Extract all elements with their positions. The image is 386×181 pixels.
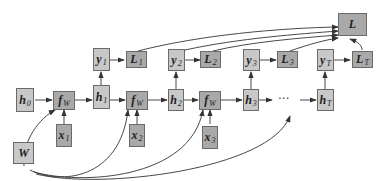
node-fw3: fW bbox=[199, 91, 221, 110]
node-L1: L1 bbox=[126, 51, 147, 68]
node-y2: y2 bbox=[168, 49, 185, 71]
node-L-total: L bbox=[338, 13, 367, 36]
node-yT: yT bbox=[317, 49, 334, 71]
edge-L1-L bbox=[138, 27, 338, 51]
edge-W-fw2 bbox=[30, 110, 128, 177]
node-x3: x3 bbox=[202, 126, 218, 149]
node-W: W bbox=[13, 142, 34, 164]
node-x2: x2 bbox=[129, 124, 145, 147]
edge-y2-L bbox=[185, 31, 338, 50]
node-fw2: fW bbox=[126, 91, 148, 110]
node-x1: x1 bbox=[56, 124, 72, 147]
node-h0: h0 bbox=[16, 88, 34, 112]
node-h3: h3 bbox=[243, 89, 259, 111]
node-L3: L3 bbox=[277, 51, 298, 68]
node-LT: LT bbox=[352, 51, 373, 68]
edge-W-fwT bbox=[36, 116, 290, 179]
node-h1: h1 bbox=[93, 85, 110, 109]
node-y3: y3 bbox=[243, 49, 260, 71]
node-fw1: fW bbox=[53, 91, 75, 110]
node-hT: hT bbox=[317, 89, 334, 111]
node-h2: h2 bbox=[168, 89, 184, 111]
edge-LT-L bbox=[350, 39, 362, 50]
node-y1: y1 bbox=[93, 48, 110, 71]
ellipsis: ··· bbox=[278, 92, 289, 106]
node-L2: L2 bbox=[200, 51, 221, 68]
